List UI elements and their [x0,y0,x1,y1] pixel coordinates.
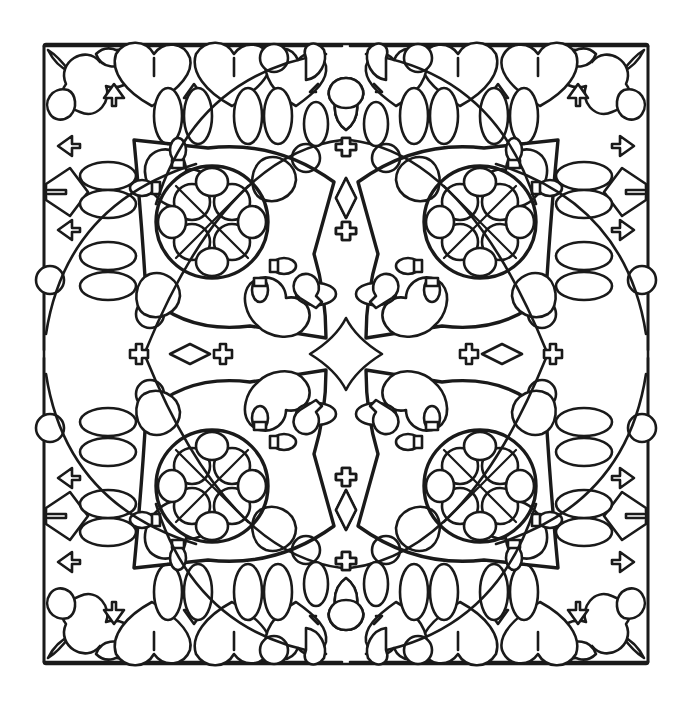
quadrant-bottom-left [36,358,363,665]
quadrant-bottom-right [329,358,656,665]
axis-motifs-horizontal [460,344,562,364]
mandala-artwork [0,0,695,708]
coloring-page-canvas [0,0,695,708]
quadrant-top-right [329,43,656,350]
quadrant-top-left [36,43,363,350]
axis-motifs-horizontal-2 [130,344,232,364]
center-star [310,318,382,390]
